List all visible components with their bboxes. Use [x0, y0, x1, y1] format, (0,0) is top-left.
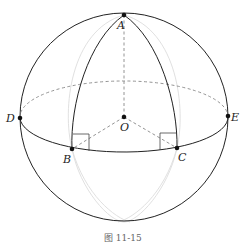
label-O: O	[120, 121, 129, 134]
point-E	[226, 114, 231, 119]
label-D: D	[5, 112, 15, 125]
arc-AC	[124, 15, 177, 148]
sphere-diagram: A O D E B C 图 11-15	[0, 0, 241, 244]
point-O	[122, 115, 127, 120]
arc-AB	[72, 15, 124, 149]
label-E: E	[230, 111, 239, 124]
point-A	[122, 13, 127, 18]
label-C: C	[178, 151, 187, 164]
label-B: B	[62, 153, 71, 166]
point-D	[18, 116, 23, 121]
point-C	[175, 146, 180, 151]
point-B	[70, 147, 75, 152]
label-A: A	[116, 19, 125, 32]
figure-caption: 图 11-15	[104, 233, 142, 243]
